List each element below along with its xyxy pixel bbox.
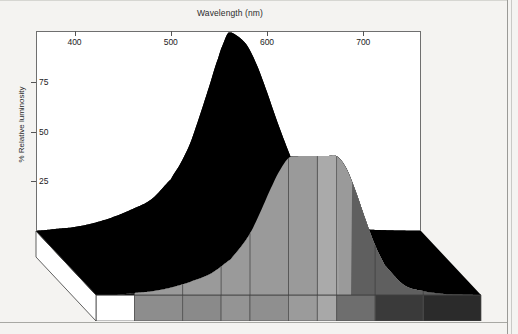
spectrum-segment-yellow-green (289, 295, 318, 321)
spectrum-segment-yellow (317, 295, 336, 321)
spectrum-segment-cyan (221, 295, 250, 321)
page-edge-line (507, 0, 508, 334)
front-face-yellow-band (317, 155, 338, 295)
spectrum-segment-deep-red (423, 295, 481, 321)
spectrum-segment-blue (183, 295, 222, 321)
spectrum-segment-below-violet (96, 295, 135, 321)
spectrum-base-strip (96, 295, 481, 321)
page-edge-line-outer (511, 0, 512, 334)
spectrum-segment-orange (337, 295, 376, 321)
spectrum-segment-violet (135, 295, 183, 321)
spectrum-segment-green (250, 295, 289, 321)
back-curtain (36, 32, 421, 231)
page-canvas: Wavelength (nm) % Relative luminosity 40… (0, 0, 518, 334)
surface-plot (0, 0, 507, 321)
luminosity-figure: Wavelength (nm) % Relative luminosity 40… (0, 0, 507, 321)
spectrum-segment-red (375, 295, 423, 321)
page-rule-bottom (0, 322, 507, 323)
